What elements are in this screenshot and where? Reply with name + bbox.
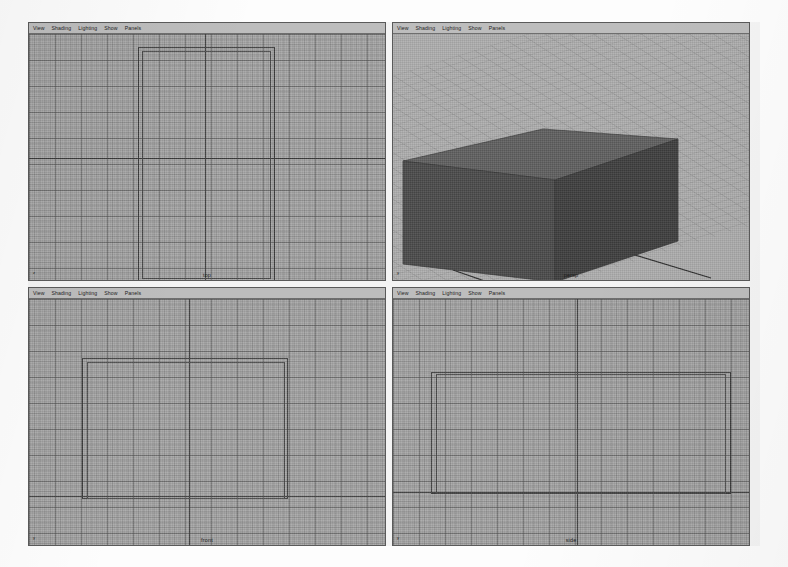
menu-item-panels[interactable]: Panels [489,290,505,296]
shaded-cube[interactable] [393,34,749,280]
cube-wireframe-inner [436,374,726,494]
menu-item-view[interactable]: View [397,25,409,31]
menu-item-lighting[interactable]: Lighting [442,290,461,296]
viewport-label-side: side [393,537,749,544]
menu-item-view[interactable]: View [397,290,409,296]
viewport-front-menubar[interactable]: View Shading Lighting Show Panels [29,288,385,299]
viewport-label-top: top [29,272,385,279]
menu-item-panels[interactable]: Panels [489,25,505,31]
viewport-grid: View Shading Lighting Show Panels z top [28,22,760,546]
menu-item-show[interactable]: Show [468,290,481,296]
viewport-persp[interactable]: View Shading Lighting Show Panels [392,22,750,281]
menu-item-lighting[interactable]: Lighting [78,25,97,31]
viewport-front-canvas[interactable]: y front [29,299,385,545]
menu-item-panels[interactable]: Panels [125,25,141,31]
viewport-side-canvas[interactable]: y side [393,299,749,545]
viewport-side[interactable]: View Shading Lighting Show Panels y side [392,287,750,546]
cube-face-left [403,161,555,280]
viewport-persp-menubar[interactable]: View Shading Lighting Show Panels [393,23,749,34]
menu-item-shading[interactable]: Shading [416,290,436,296]
viewport-front[interactable]: View Shading Lighting Show Panels y fron… [28,287,386,546]
viewport-label-front: front [29,537,385,544]
viewport-top-canvas[interactable]: z top [29,34,385,280]
viewport-label-persp: persp [393,272,749,279]
menu-item-show[interactable]: Show [468,25,481,31]
viewport-top-menubar[interactable]: View Shading Lighting Show Panels [29,23,385,34]
menu-item-shading[interactable]: Shading [416,25,436,31]
menu-item-show[interactable]: Show [104,290,117,296]
viewport-side-menubar[interactable]: View Shading Lighting Show Panels [393,288,749,299]
cube-wireframe-inner [87,362,285,499]
menu-item-view[interactable]: View [33,290,45,296]
menu-item-panels[interactable]: Panels [125,290,141,296]
cube-wireframe-inner [142,51,271,279]
menu-item-lighting[interactable]: Lighting [78,290,97,296]
menu-item-lighting[interactable]: Lighting [442,25,461,31]
screenshot-canvas: View Shading Lighting Show Panels z top [0,0,788,567]
viewport-persp-canvas[interactable]: y persp [393,34,749,280]
menu-item-show[interactable]: Show [104,25,117,31]
viewport-top[interactable]: View Shading Lighting Show Panels z top [28,22,386,281]
menu-item-shading[interactable]: Shading [52,25,72,31]
menu-item-shading[interactable]: Shading [52,290,72,296]
menu-item-view[interactable]: View [33,25,45,31]
